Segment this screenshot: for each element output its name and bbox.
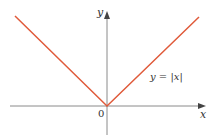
abs-value-graph: y x 0 y = |x| — [0, 0, 217, 138]
x-axis-label: x — [200, 108, 207, 121]
y-axis-arrow-icon — [104, 11, 110, 19]
y-axis-label: y — [96, 6, 104, 19]
origin-label: 0 — [98, 108, 104, 119]
curve-label: y = |x| — [149, 71, 183, 83]
